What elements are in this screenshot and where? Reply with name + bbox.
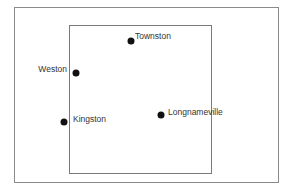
place-marker-icon-weston[interactable] bbox=[73, 70, 80, 77]
inner-region-boundary bbox=[69, 25, 212, 174]
place-marker-icon-kingston[interactable] bbox=[61, 119, 68, 126]
place-marker-icon-longnameville[interactable] bbox=[158, 112, 165, 119]
place-label-longnameville: Longnameville bbox=[168, 107, 223, 117]
place-label-townston: Townston bbox=[135, 31, 171, 41]
place-label-weston: Weston bbox=[38, 64, 67, 74]
place-marker-icon-townston[interactable] bbox=[128, 38, 135, 45]
place-label-kingston: Kingston bbox=[73, 114, 106, 124]
